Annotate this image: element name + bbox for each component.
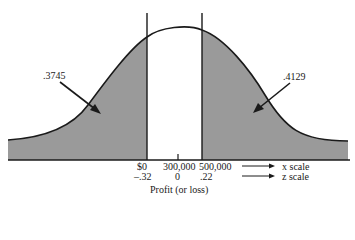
left-area-label: .3745 — [43, 70, 66, 81]
z-tick-1: 0 — [175, 171, 180, 182]
z-scale-label: z scale — [282, 171, 309, 182]
z-scale-arrow-icon — [242, 174, 275, 179]
axis-title: Profit (or loss) — [150, 184, 208, 195]
right-area-label: .4129 — [283, 71, 306, 82]
z-tick-2: .22 — [200, 171, 213, 182]
z-tick-0: –.32 — [134, 171, 152, 182]
x-scale-arrow-icon — [242, 164, 275, 169]
normal-curve — [8, 27, 348, 141]
